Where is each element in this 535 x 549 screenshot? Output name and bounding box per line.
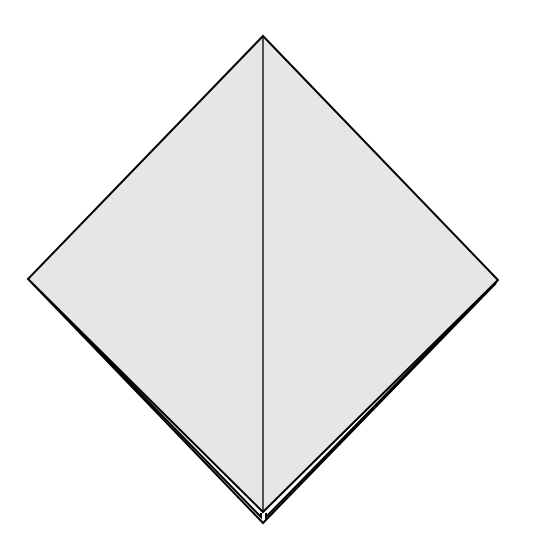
diagram-svg (0, 0, 535, 549)
origami-diagram (0, 0, 535, 549)
